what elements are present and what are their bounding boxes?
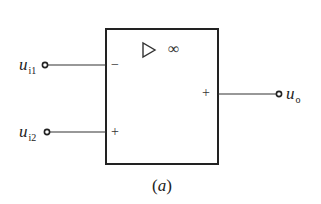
output-var: u [286,84,295,103]
inverting-sign: − [111,58,119,72]
input2-terminal [44,129,49,134]
output-terminal [276,91,281,96]
input1-var: u [19,55,28,74]
output-sign: + [202,86,210,100]
input1-label: ui1 [19,56,36,73]
caption-close: ) [166,176,172,195]
infinite-gain-symbol: ∞ [168,41,179,57]
amplifier-triangle-icon [143,43,155,57]
output-label: uo [286,85,301,102]
input1-subscript: i1 [29,65,37,76]
output-subscript: o [296,94,301,105]
caption-letter: a [158,176,167,195]
opamp-diagram [0,0,321,204]
input2-subscript: i2 [29,132,37,143]
figure-caption: (a) [152,177,172,194]
input2-var: u [19,122,28,141]
noninverting-sign: + [111,125,119,139]
input2-label: ui2 [19,123,36,140]
input1-terminal [42,62,47,67]
